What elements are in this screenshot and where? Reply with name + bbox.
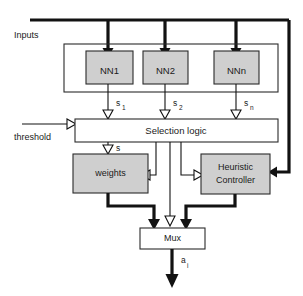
wire-selection-to-weights-side: [150, 142, 156, 175]
signal-label-sn-subscript: n: [250, 104, 254, 111]
wire-weights-to-mux: [108, 193, 154, 222]
block-heuristic-controller-label-line1: Heuristic: [218, 162, 254, 172]
signal-label-s2-subscript: 2: [179, 104, 183, 111]
arrowhead-s1-into-selection: [103, 110, 113, 119]
diagram-canvas: NN1 NN2 NNn s 1 s 2 s n Selection logic …: [0, 0, 303, 296]
arrowhead-s2-into-selection: [160, 110, 170, 119]
signal-label-s1: s: [116, 98, 120, 108]
block-heuristic-controller-label-line2: Controller: [216, 175, 255, 185]
diagram-svg: NN1 NN2 NNn s 1 s 2 s n Selection logic …: [0, 0, 303, 296]
wire-selection-to-heuristic: [181, 142, 194, 175]
signal-label-output-subscript: i: [187, 262, 188, 269]
block-nn1-label: NN1: [100, 65, 119, 76]
block-mux-label: Mux: [164, 233, 182, 243]
signal-label-s: s: [116, 143, 120, 153]
arrowhead-selection-into-mux: [165, 216, 175, 226]
block-selection-logic-label: Selection logic: [145, 125, 207, 136]
signal-label-s2: s: [173, 98, 177, 108]
block-nn2-label: NN2: [156, 65, 175, 76]
signal-label-sn: s: [244, 98, 248, 108]
arrowhead-sn-into-selection: [231, 110, 241, 119]
signal-label-output: a: [181, 255, 186, 265]
signal-label-s1-subscript: 1: [122, 104, 126, 111]
label-threshold: threshold: [14, 132, 51, 142]
wire-heuristic-to-mux: [186, 194, 235, 222]
block-heuristic-controller[interactable]: [201, 154, 270, 194]
arrowhead-s-into-weights: [103, 145, 113, 154]
label-inputs: Inputs: [14, 30, 39, 40]
block-nnn-label: NNn: [227, 65, 246, 76]
input-bus-right-branch: [277, 20, 289, 172]
arrowhead-mux-output: [166, 274, 179, 288]
block-weights-label: weights: [94, 168, 126, 178]
